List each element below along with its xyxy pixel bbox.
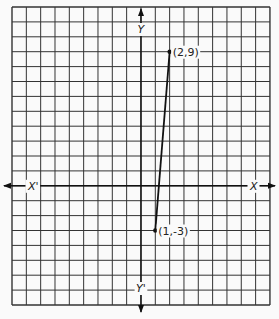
y-axis-neg-label: Y' bbox=[136, 282, 146, 295]
axes bbox=[3, 8, 276, 313]
arrow-left-icon bbox=[3, 183, 11, 189]
arrow-right-icon bbox=[268, 183, 276, 189]
point-label: (2,9) bbox=[173, 46, 199, 59]
labels: YY'X'X(2,9)(1,-3) bbox=[26, 23, 260, 295]
arrow-up-icon bbox=[138, 8, 144, 16]
point-label: (1,-3) bbox=[158, 225, 188, 238]
coordinate-plot: YY'X'X(2,9)(1,-3) bbox=[0, 0, 279, 319]
x-axis-neg-label: X' bbox=[27, 180, 39, 193]
x-axis-label: X bbox=[249, 180, 258, 193]
arrow-down-icon bbox=[138, 305, 144, 313]
